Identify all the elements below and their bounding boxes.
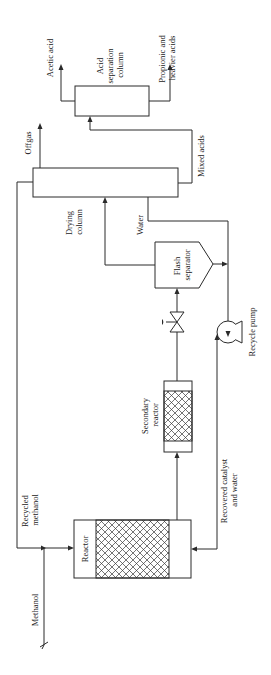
propionic-acids-label: Propionic and heavier acids — [157, 33, 177, 83]
methanol-feed-line — [42, 548, 44, 649]
reactor-to-secondary-arrowhead — [175, 452, 180, 458]
recycled-methanol-label: Recycled methanol — [20, 493, 40, 527]
drying-column — [33, 168, 178, 197]
methanol-label: Methanol — [30, 593, 40, 626]
recovered-catalyst-arrowhead — [191, 547, 197, 552]
acetic-acid-label: Acetic acid — [45, 38, 55, 77]
secondary-reactor-label: Secondary reactor — [140, 396, 160, 434]
acetic-acid-line — [61, 68, 75, 101]
acid-separation-column — [75, 86, 149, 116]
drying-column-label: Drying column — [64, 209, 84, 236]
mixed-acids-label: Mixed acids — [196, 135, 206, 177]
mixed-acids-arrowhead — [88, 116, 93, 122]
valve-to-flash-arrowhead — [175, 288, 180, 294]
flash-liquid-arrowhead — [222, 262, 228, 267]
offgas-arrowhead — [38, 123, 43, 129]
offgas-label: Offgas — [23, 132, 33, 155]
recovered-catalyst-line — [195, 336, 217, 549]
acid-separation-column-label: Acid separation column — [95, 46, 125, 83]
recycled-methanol-line — [17, 182, 70, 548]
process-flow-diagram: Acid separation column Acetic acid Propi… — [0, 0, 271, 675]
flash-vapor-arrowhead — [103, 197, 108, 203]
recovered-catalyst-label: Recovered catalyst and water — [219, 457, 239, 524]
control-valve-icon — [162, 312, 184, 332]
recycled-methanol-arrowhead — [68, 546, 74, 551]
reactor-label: Reactor — [80, 536, 90, 563]
reactor-catalyst-bed — [96, 520, 169, 578]
water-label: Water — [135, 215, 145, 235]
acetic-acid-arrowhead — [59, 64, 64, 70]
recycle-pump-label: Recycle pump — [247, 308, 257, 357]
secondary-reactor-catalyst-bed — [164, 391, 192, 441]
